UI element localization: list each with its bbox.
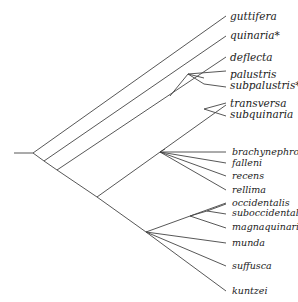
branch [146,203,226,232]
taxon-label: quinaria* [230,30,280,41]
taxon-label: munda [232,238,265,248]
taxon-label: subquinaria [230,109,293,120]
branch [188,71,226,74]
taxon-label: palustris [230,69,276,80]
taxon-label: kuntzei [232,286,267,296]
branch [97,197,146,232]
branch [207,211,226,214]
branch [190,211,207,216]
branch [188,74,204,84]
phylogenetic-tree: guttiferaquinaria*deflectapalustrissubpa… [0,0,298,302]
taxon-label: suffusca [232,261,272,271]
branch [44,161,57,170]
taxon-label: recens [232,171,264,181]
taxon-label: brachynephros [232,147,298,157]
branch [204,103,226,109]
branch [146,232,226,291]
taxon-label: transversa [230,98,286,109]
taxon-label: guttifera [230,11,277,22]
branch [44,36,226,161]
branch [204,109,226,116]
branch [57,170,97,197]
branch [33,16,226,153]
branch [207,204,226,211]
branch [57,57,226,170]
branch [170,74,188,96]
branch [204,84,226,87]
branch [33,153,44,161]
taxon-label: subpalustris* [230,80,298,91]
branch [190,216,226,228]
taxon-label: magnaquinaria* [232,222,298,232]
taxon-label: suboccidentalis [232,208,298,218]
taxon-label: falleni [232,158,262,168]
taxon-label: rellima [232,185,266,195]
branch [160,152,226,176]
taxon-label: deflecta [230,52,273,63]
